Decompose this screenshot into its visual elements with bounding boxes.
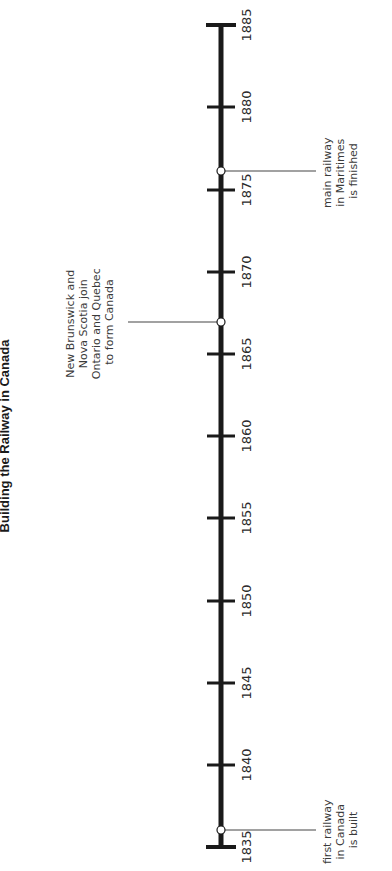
event-label-line: first railway [321,799,334,864]
year-label-1885: 1885 [239,8,254,41]
event-label-line: is finished [347,143,360,199]
event-label: main railway in Maritimes is finished [321,134,360,208]
year-label-1850: 1850 [239,584,254,617]
event-label-line: is built [347,811,360,848]
year-label-1840: 1840 [239,748,254,781]
year-label-1855: 1855 [239,501,254,534]
year-label-1865: 1865 [239,337,254,370]
event-label-line: New Brunswick and [64,270,77,378]
event-label: first railway in Canada is built [321,796,360,864]
event-label-line: to form Canada [103,279,116,365]
event-label-line: main railway [321,137,334,208]
event-label-line: in Canada [334,804,347,859]
year-labels: 1835 1840 1845 1850 1855 1860 1865 1870 … [239,8,254,863]
event-marker [217,318,225,326]
event-label-line: Nova Scotia join [77,279,90,368]
event-label: New Brunswick and Nova Scotia join Ontar… [64,265,116,379]
year-label-1875: 1875 [239,173,254,206]
figure-title: Building the Railway in Canada [0,339,12,533]
year-label-1835: 1835 [239,830,254,863]
event-label-line: Ontario and Quebec [90,268,103,379]
year-label-1845: 1845 [239,666,254,699]
event-marker [217,826,225,834]
event-label-line: in Maritimes [334,139,347,207]
event-confederation: New Brunswick and Nova Scotia join Ontar… [64,265,225,379]
event-marker [217,167,225,175]
year-label-1880: 1880 [239,90,254,123]
year-label-1860: 1860 [239,419,254,452]
year-label-1870: 1870 [239,255,254,288]
timeline-figure: Building the Railway in Canada 1835 1840… [0,0,392,871]
